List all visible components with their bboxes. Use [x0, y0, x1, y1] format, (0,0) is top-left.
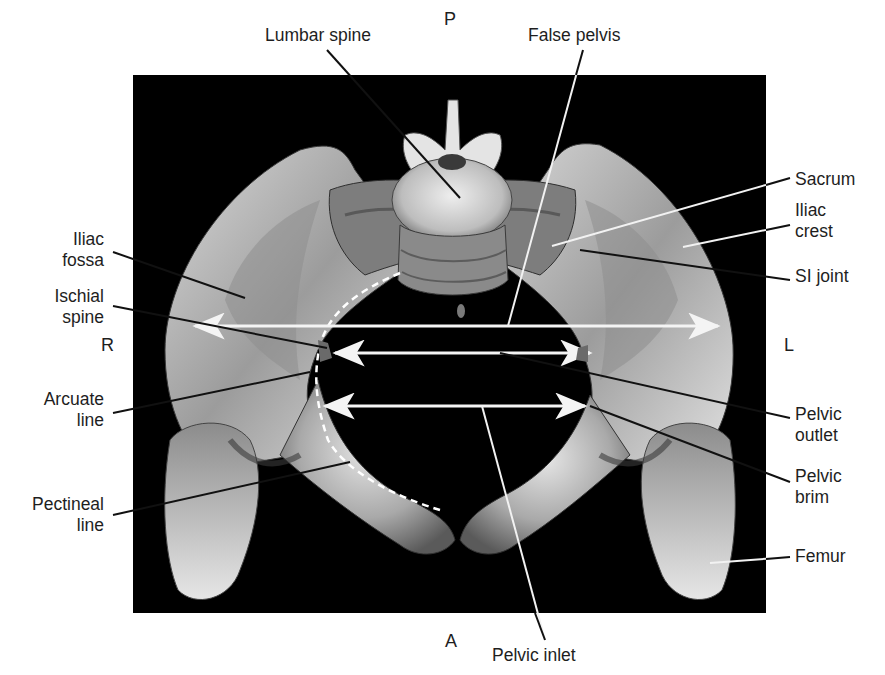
label-sacrum: Sacrum [795, 169, 855, 190]
label-false-pelvis: False pelvis [528, 25, 620, 46]
lumbar-vertebral-body [392, 158, 512, 242]
label-femur: Femur [795, 546, 846, 567]
label-pelvic-outlet: Pelvic outlet [795, 404, 842, 446]
orientation-right: R [101, 335, 114, 356]
pelvis-diagram [0, 0, 885, 675]
label-iliac-fossa: Iliac fossa [62, 229, 104, 271]
vertebral-canal [438, 154, 466, 170]
label-pelvic-inlet: Pelvic inlet [492, 645, 576, 666]
orientation-posterior: P [444, 9, 456, 30]
orientation-left: L [784, 335, 794, 356]
label-lumbar-spine: Lumbar spine [265, 25, 371, 46]
label-iliac-crest: Iliac crest [795, 200, 833, 242]
label-si-joint: SI joint [795, 266, 849, 287]
label-ischial-spine: Ischial spine [54, 286, 104, 328]
label-arcuate-line: Arcuate line [44, 389, 104, 431]
label-pelvic-brim: Pelvic brim [795, 466, 842, 508]
orientation-anterior: A [445, 631, 457, 652]
coccyx-tip [457, 304, 465, 318]
label-pectineal-line: Pectineal line [32, 494, 104, 536]
